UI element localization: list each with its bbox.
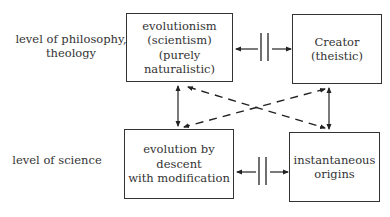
diagonal-creator-to-evolution-descent: [184, 89, 325, 127]
relation-links: [0, 0, 390, 217]
top-incompatible-arrow: [236, 33, 291, 61]
bottom-incompatible-arrow: [237, 157, 288, 185]
